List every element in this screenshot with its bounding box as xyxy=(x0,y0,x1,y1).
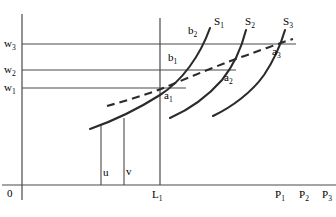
point-label-b1: b1 xyxy=(168,52,177,63)
price-label-P2: P2 xyxy=(299,189,309,200)
point-label-a1: a1 xyxy=(164,90,173,101)
curve-label-S2: S2 xyxy=(245,16,255,27)
curve-label-S3: S3 xyxy=(283,16,293,27)
quantity-label-L1: L1 xyxy=(152,189,162,200)
point-label-b2: b2 xyxy=(188,25,197,36)
quantity-label-u: u xyxy=(103,167,109,178)
supply-curve-S2 xyxy=(170,30,246,118)
point-label-a3: a3 xyxy=(272,46,281,57)
wage-label-w3: w3 xyxy=(4,38,16,49)
price-label-P1: P1 xyxy=(275,189,285,200)
diagram-svg xyxy=(0,0,336,217)
price-label-P3: P3 xyxy=(322,189,332,200)
quantity-label-v: v xyxy=(126,166,132,177)
supply-curve-S1 xyxy=(90,28,210,129)
wage-label-w1: w1 xyxy=(4,82,16,93)
figure-canvas: 0 w1 w2 w3 S1 S2 S3 a1 a2 a3 b1 b2 u v L… xyxy=(0,0,336,217)
wage-label-w2: w2 xyxy=(4,64,16,75)
axis-origin-label: 0 xyxy=(7,188,13,199)
curve-label-S1: S1 xyxy=(214,16,224,27)
point-label-a2: a2 xyxy=(224,72,233,83)
